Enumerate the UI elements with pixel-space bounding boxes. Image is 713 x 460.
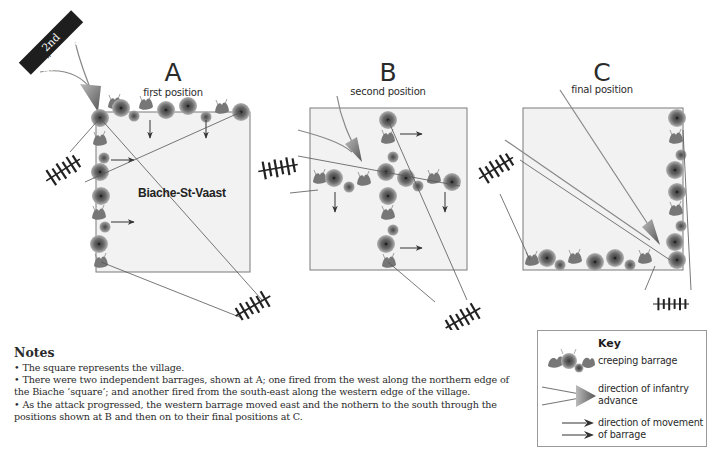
key-label-creeping-barrage: creeping barrage: [598, 355, 677, 367]
key-title: Key: [598, 337, 621, 350]
infantry-advance-arrow-icon: [540, 381, 598, 411]
artillery-west-b: [257, 156, 300, 181]
key-label-barrage-movement: direction of movement of barrage: [598, 417, 706, 441]
panel-c: [474, 90, 691, 310]
panel-b: [257, 96, 485, 330]
key-legend: Key creeping barrage direction of infant…: [537, 330, 707, 447]
panel-caption-c: final position: [542, 84, 662, 95]
notes-title: Notes: [14, 345, 534, 360]
barrage-movement-arrow-icon: [560, 417, 596, 441]
key-label-infantry-advance: direction of infantry advance: [598, 383, 698, 407]
panel-caption-b: second position: [328, 86, 448, 97]
village-square-c: [523, 108, 683, 270]
panel-letter-c: C: [582, 58, 622, 87]
note-item-2: • There were two independent barrages, s…: [14, 374, 514, 398]
barrage-diagram: [0, 0, 713, 330]
artillery-southeast-a: [231, 288, 275, 324]
artillery-west-c: [474, 150, 517, 186]
panel-caption-a: first position: [113, 87, 233, 98]
panel-letter-a: A: [153, 58, 193, 87]
notes-section: Notes • The square represents the villag…: [14, 345, 534, 423]
note-item-1: • The square represents the village.: [14, 362, 534, 374]
village-name-label: Biache-St-Vaast: [138, 186, 226, 200]
panel-letter-b: B: [368, 58, 408, 87]
creeping-barrage-icon: [546, 348, 596, 376]
artillery-west-a: [41, 152, 84, 189]
note-item-3: • As the attack progressed, the western …: [14, 399, 514, 423]
artillery-southeast-b: [441, 300, 485, 330]
artillery-south-c: [653, 298, 689, 311]
